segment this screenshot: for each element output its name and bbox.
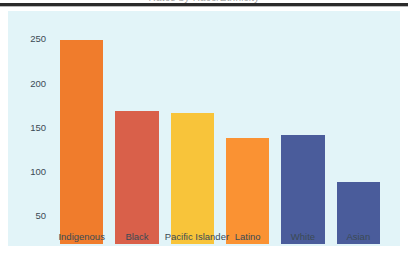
x-label-slot: Asian (331, 227, 386, 247)
y-axis-tick: 200 (30, 77, 46, 88)
header-rule-shadow (0, 6, 408, 7)
x-label-slot: Black (109, 227, 164, 247)
x-axis-label: Pacific Islander (165, 227, 220, 247)
x-axis-label: Asian (331, 227, 386, 247)
bar-slot (275, 21, 330, 244)
x-label-slot: Indigenous (54, 227, 109, 247)
x-axis-label: Indigenous (54, 227, 109, 247)
x-axis-labels: IndigenousBlackPacific IslanderLatinoWhi… (52, 227, 392, 247)
bar-slot (109, 21, 164, 244)
y-axis-tick: 50 (35, 210, 46, 221)
x-label-slot: Latino (220, 227, 275, 247)
x-axis-label: Latino (220, 227, 275, 247)
bar-slot (165, 21, 220, 244)
y-axis-tick: 250 (30, 33, 46, 44)
x-label-slot: Pacific Islander (165, 227, 220, 247)
plot-area (52, 21, 392, 244)
x-label-slot: White (275, 227, 330, 247)
bar-slot (54, 21, 109, 244)
x-axis-label: Black (109, 227, 164, 247)
y-axis-tick: 100 (30, 166, 46, 177)
bar-chart: 25020015010050 IndigenousBlackPacific Is… (8, 11, 400, 246)
chart-page: Rates by Race/Ethnicity 25020015010050 I… (0, 0, 408, 257)
bar-slot (331, 21, 386, 244)
bar-indigenous[interactable] (60, 40, 103, 244)
bar-series (52, 21, 392, 244)
y-axis: 25020015010050 (8, 21, 52, 244)
x-axis-label: White (275, 227, 330, 247)
y-axis-tick: 150 (30, 121, 46, 132)
bar-slot (220, 21, 275, 244)
bar-pacific-islander[interactable] (171, 113, 214, 244)
bar-black[interactable] (115, 111, 158, 244)
